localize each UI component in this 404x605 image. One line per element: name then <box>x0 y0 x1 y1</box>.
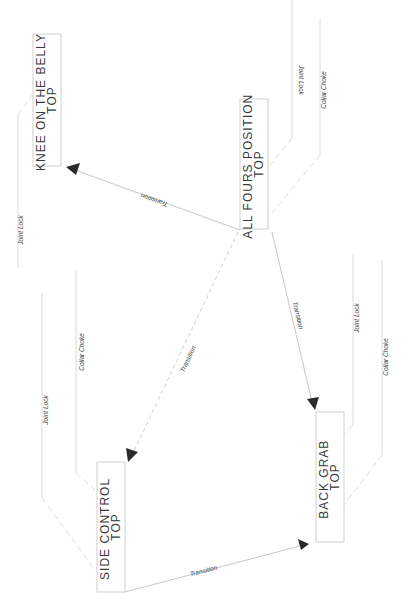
sc-joint-lock-branch <box>42 293 95 570</box>
node-back-grab[interactable]: BACK GRAB TOP <box>316 412 344 542</box>
bg-joint-lock-label: Joint Lock <box>353 303 360 334</box>
afp-joint-lock-label: Joint Lock <box>298 64 305 95</box>
edge-label-afp-sc: Transition <box>179 344 197 373</box>
edge-afp-to-bg[interactable] <box>272 232 319 410</box>
edge-sc-to-bg[interactable] <box>125 539 309 592</box>
node-side-control[interactable]: SIDE CONTROL TOP <box>97 462 125 592</box>
node-subtitle: TOP <box>45 86 59 113</box>
arrow-head-icon <box>307 397 319 410</box>
bg-collar-choke-branch <box>344 260 382 505</box>
node-subtitle: TOP <box>328 463 342 490</box>
sc-collar-choke-label: Collar Choke <box>78 333 85 371</box>
node-subtitle: TOP <box>252 150 266 177</box>
edge-label-afp-kotb: Transition <box>139 192 168 208</box>
diagram-canvas: KNEE ON THE BELLY TOP ALL FOURS POSITION… <box>0 0 404 605</box>
edge-label-sc-bg: Transition <box>189 564 218 578</box>
kotb-joint-lock-label: Joint Lock <box>17 215 24 246</box>
sc-joint-lock-label: Joint Lock <box>42 395 49 426</box>
afp-joint-lock-branch <box>268 0 292 168</box>
bg-collar-choke-label: Collar Choke <box>382 338 389 376</box>
edge-afp-to-sc[interactable] <box>126 232 238 462</box>
arrow-head-icon <box>66 163 80 175</box>
arrow-head-icon <box>298 539 309 550</box>
sc-collar-choke-branch <box>76 270 95 490</box>
arrow-head-icon <box>126 448 138 462</box>
afp-collar-choke-label: Collar Choke <box>320 71 327 109</box>
node-knee-on-the-belly[interactable]: KNEE ON THE BELLY TOP <box>33 29 61 171</box>
node-all-fours-position[interactable]: ALL FOURS POSITION TOP <box>240 89 268 238</box>
bg-joint-lock-branch <box>344 253 353 435</box>
node-subtitle: TOP <box>109 513 123 540</box>
afp-collar-choke-branch <box>268 18 320 218</box>
